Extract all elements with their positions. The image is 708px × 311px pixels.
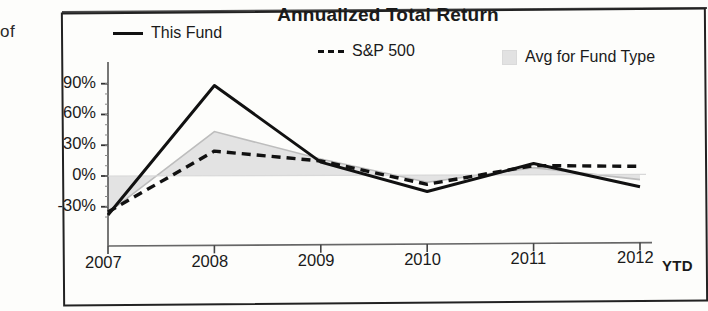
chart-screenshot: of Annualized Total Return This Fund S&P… [0, 0, 707, 311]
chart-plot-area [0, 0, 707, 311]
